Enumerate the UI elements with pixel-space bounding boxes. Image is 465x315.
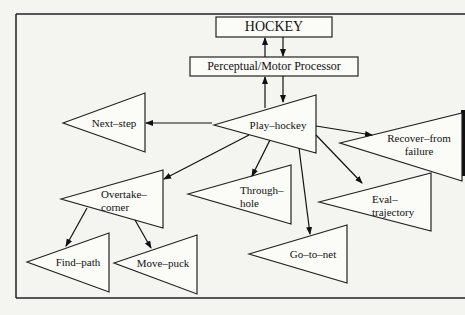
arrow-play-to-recover [316, 126, 372, 135]
arrow-play-to-go [299, 148, 310, 234]
play-hockey-label: Play–hockey [240, 119, 316, 131]
through-hole-label-2: hole [240, 197, 290, 209]
recover-label-2: failure [380, 145, 458, 157]
recover-label-1: Recover–from [380, 132, 458, 144]
perceptual-motor-label: Perceptual/Motor Processor [190, 59, 358, 74]
arrow-play-to-through [252, 140, 270, 176]
move-puck-label: Move–puck [128, 257, 198, 269]
overtake-label-2: corner [101, 201, 161, 213]
through-hole-label-1: Through– [240, 184, 290, 196]
arrow-play-to-overtake [164, 135, 249, 179]
arrow-overtake-to-find [66, 208, 87, 246]
go-to-net-label: Go–to–net [280, 248, 346, 260]
find-path-label: Find–path [48, 256, 108, 268]
eval-label-2: trajectory [372, 206, 430, 218]
next-step-label: Next–step [84, 117, 144, 129]
hockey-label: HOCKEY [216, 19, 332, 35]
overtake-label-1: Overtake– [101, 188, 161, 200]
eval-label-1: Eval– [372, 193, 430, 205]
